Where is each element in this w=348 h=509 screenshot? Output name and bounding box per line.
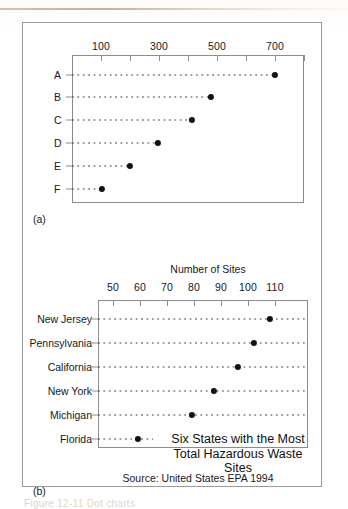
xaxis-tick-label: 100: [239, 281, 257, 293]
tick: [140, 300, 141, 306]
panel-b-annotation: Six States with the Most Total Hazardous…: [163, 432, 313, 476]
category-label: Pennsylvania: [23, 337, 92, 349]
leader-line: [72, 75, 275, 76]
xaxis-tick-label: 90: [215, 281, 227, 293]
figure-box: 100 300 500 700 A B C: [22, 22, 322, 487]
tick: [221, 300, 222, 306]
category-label: E: [54, 160, 61, 172]
panel-b-plot-frame: [98, 300, 308, 448]
figure-page: 100 300 500 700 A B C: [0, 0, 348, 509]
tick: [130, 55, 131, 61]
tick: [217, 55, 218, 61]
panel-a: 100 300 500 700 A B C: [23, 23, 323, 233]
tick: [304, 55, 305, 61]
leader-line: [72, 166, 130, 167]
leader-line: [98, 367, 308, 368]
leader-line: [98, 415, 308, 416]
xaxis-tick-label: 700: [266, 40, 284, 52]
panel-b-letter: (b): [33, 485, 46, 497]
xaxis-tick-label: 110: [266, 281, 283, 293]
category-label: F: [54, 183, 60, 195]
category-label: Florida: [23, 433, 92, 445]
tick: [101, 55, 102, 61]
panel-b-axis-title: Number of Sites: [170, 263, 245, 275]
tick: [159, 55, 160, 61]
category-label: New York: [23, 385, 92, 397]
category-label: B: [54, 91, 61, 103]
xaxis-tick-label: 60: [134, 281, 146, 293]
panel-a-plot-frame: [72, 55, 304, 203]
leader-line: [98, 439, 153, 440]
leader-line: [98, 319, 308, 320]
panel-a-letter: (a): [33, 213, 46, 225]
leader-line: [72, 189, 102, 190]
tick: [72, 55, 73, 61]
xaxis-tick-label: 300: [150, 40, 168, 52]
category-label: Michigan: [23, 409, 92, 421]
xaxis-tick-label: 500: [208, 40, 226, 52]
panel-b: Number of Sites 50 60 70 80 90 100 1: [23, 248, 323, 488]
leader-line: [98, 391, 308, 392]
page-top-rule: [0, 8, 348, 10]
category-label: California: [23, 361, 92, 373]
category-label: New Jersey: [23, 313, 92, 325]
xaxis-tick-label: 50: [107, 281, 119, 293]
category-label: A: [54, 69, 61, 81]
panel-b-source: Source: United States EPA 1994: [123, 472, 274, 484]
xaxis-tick-label: 80: [188, 281, 200, 293]
tick: [188, 55, 189, 61]
leader-line: [72, 143, 158, 144]
tick: [246, 55, 247, 61]
leader-line: [72, 120, 192, 121]
tick: [113, 300, 114, 306]
xaxis-tick-label: 70: [161, 281, 173, 293]
tick: [275, 300, 276, 306]
tick: [275, 55, 276, 61]
leader-line: [98, 343, 308, 344]
tick: [248, 300, 249, 306]
category-label: C: [54, 114, 62, 126]
xaxis-tick-label: 100: [92, 40, 110, 52]
category-label: D: [54, 137, 62, 149]
leader-line: [72, 97, 211, 98]
tick: [194, 300, 195, 306]
tick: [167, 300, 168, 306]
figure-caption: Figure 12-11 Dot charts: [24, 498, 135, 509]
